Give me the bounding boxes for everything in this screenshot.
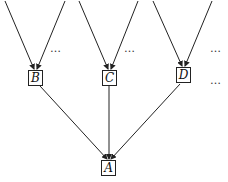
- edge-in-c-right: [111, 1, 138, 69]
- node-b-label: B: [31, 71, 40, 85]
- ellipsis-d-bottom: …: [210, 74, 222, 87]
- edge-in-b-right: [37, 1, 65, 69]
- node-a-label: A: [104, 161, 113, 175]
- node-c: C: [102, 70, 117, 86]
- node-d-label: D: [179, 68, 189, 82]
- ellipsis-d-top: …: [210, 42, 222, 55]
- ellipsis-c: …: [124, 42, 136, 55]
- node-b: B: [28, 70, 43, 86]
- node-a: A: [101, 160, 116, 176]
- edge-b-to-a: [40, 86, 107, 159]
- node-d: D: [176, 67, 191, 83]
- node-c-label: C: [105, 71, 114, 85]
- edge-in-d-right: [185, 1, 212, 66]
- edge-d-to-a: [111, 84, 180, 159]
- edge-in-d-left: [153, 1, 182, 66]
- edge-in-c-left: [79, 1, 108, 69]
- ellipsis-b: …: [50, 42, 62, 55]
- tree-diagram-edges: [0, 0, 228, 182]
- edge-in-b-left: [5, 1, 34, 69]
